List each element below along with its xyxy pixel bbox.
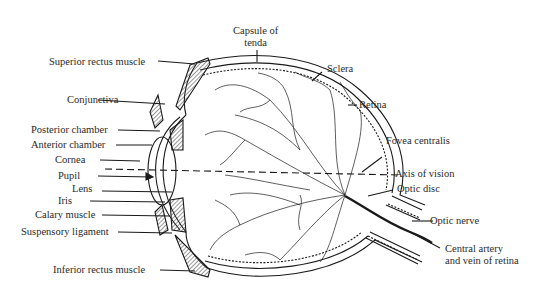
label-conjunctiva: Conjunctiva xyxy=(67,94,118,106)
label-calary-muscle: Calary muscle xyxy=(35,209,95,221)
label-optic-nerve: Optic nerve xyxy=(430,215,479,227)
label-line: Capsule of xyxy=(233,25,278,37)
label-cornea: Cornea xyxy=(55,154,85,166)
label-line: Central artery xyxy=(445,243,519,255)
label-iris: Iris xyxy=(58,195,72,207)
label-retina: Retina xyxy=(359,99,386,111)
label-sclera: Sclera xyxy=(327,63,353,75)
label-anterior-chamber: Anterior chamber xyxy=(31,139,105,151)
label-lens: Lens xyxy=(72,183,92,195)
axis-of-vision-line xyxy=(105,169,400,175)
label-inferior-rectus-muscle: Inferior rectus muscle xyxy=(53,264,145,276)
label-fovea-centralis: Fovea centralis xyxy=(386,135,450,147)
superior-rectus-muscle xyxy=(176,58,210,110)
label-line: and vein of retina xyxy=(445,255,519,267)
label-superior-rectus-muscle: Superior rectus muscle xyxy=(49,56,145,68)
label-pupil: Pupil xyxy=(58,170,80,182)
label-suspensory-ligament: Suspensory ligament xyxy=(21,226,109,238)
label-optic-disc: Optic disc xyxy=(397,183,440,195)
label-line: tenda xyxy=(233,37,278,49)
label-central-artery-and-vein: Central artery and vein of retina xyxy=(445,243,519,267)
label-capsule-of-tenda: Capsule of tenda xyxy=(233,25,278,49)
label-posterior-chamber: Posterior chamber xyxy=(31,124,108,136)
label-axis-of-vision: Axis of vision xyxy=(395,168,455,180)
